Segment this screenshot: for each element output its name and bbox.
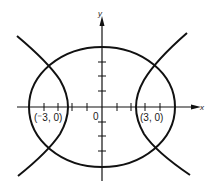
- conic-diagram: y x 0 (⁻3, 0) (3, 0): [0, 0, 212, 193]
- left-focus-label: (⁻3, 0): [34, 112, 62, 123]
- y-axis: [98, 16, 106, 181]
- hyperbola-right-branch: [136, 33, 190, 175]
- right-focus-label: (3, 0): [140, 112, 163, 123]
- origin-label: 0: [93, 111, 99, 122]
- x-axis-label: x: [199, 103, 205, 112]
- x-axis: [17, 103, 201, 111]
